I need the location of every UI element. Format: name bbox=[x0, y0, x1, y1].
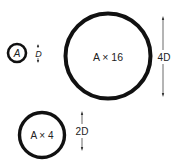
circle-area-diagram: A D A × 16 4D A × 4 2D bbox=[0, 0, 175, 164]
arrow-down-icon bbox=[37, 60, 39, 63]
large-circle-area-label: A × 16 bbox=[93, 51, 123, 63]
arrow-up-icon bbox=[81, 111, 83, 115]
small-circle-area-label: A bbox=[13, 48, 21, 59]
medium-diameter-dimension: 2D bbox=[76, 111, 89, 151]
medium-circle-group: A × 4 2D bbox=[20, 111, 89, 158]
arrow-down-icon bbox=[81, 147, 83, 151]
large-circle-group: A × 16 4D bbox=[66, 14, 171, 99]
large-diameter-dimension: 4D bbox=[158, 16, 171, 97]
arrow-up-icon bbox=[162, 16, 164, 20]
large-diameter-label: 4D bbox=[158, 52, 171, 63]
medium-circle-area-label: A × 4 bbox=[30, 130, 54, 141]
arrow-up-icon bbox=[37, 44, 39, 47]
arrow-down-icon bbox=[162, 93, 164, 97]
small-diameter-label: D bbox=[35, 49, 42, 59]
small-circle-group: A D bbox=[8, 44, 42, 63]
small-diameter-dimension: D bbox=[35, 44, 42, 63]
medium-diameter-label: 2D bbox=[76, 126, 89, 137]
